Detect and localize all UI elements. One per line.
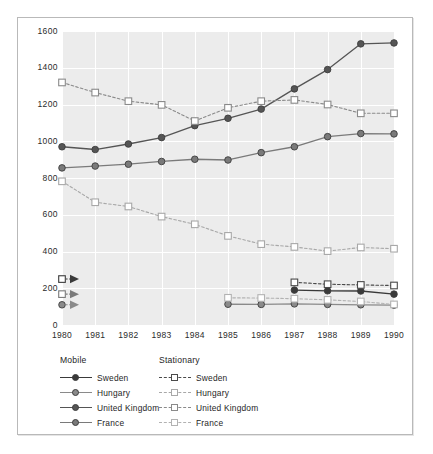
series-marker-circle (225, 301, 232, 308)
series-stationary-hungary (59, 178, 398, 254)
series-marker-square (125, 203, 132, 210)
series-mobile-france (59, 130, 398, 171)
series-marker-square (291, 244, 298, 251)
legend-symbol (159, 402, 191, 414)
legend-item-mobile-sweden[interactable]: Sweden (60, 370, 170, 385)
series-marker-square (225, 295, 232, 302)
series-marker-circle (92, 146, 99, 153)
series-marker-circle (225, 157, 232, 164)
series-marker-circle (125, 161, 132, 168)
legend-marker-circle (72, 419, 79, 426)
series-marker-square (225, 233, 232, 240)
arrow-sweden-stationary (59, 275, 79, 283)
legend-marker-square (171, 374, 178, 381)
series-layer (62, 31, 394, 325)
legend-item-stationary-france[interactable]: France (159, 415, 319, 430)
series-marker-circle (358, 130, 365, 137)
y-axis-tick-label: 400 (22, 246, 58, 256)
series-marker-circle (391, 291, 398, 298)
series-marker-circle (291, 86, 298, 93)
legend-marker-square (171, 389, 178, 396)
series-stationary-sweden (291, 279, 397, 289)
series-marker-square (92, 199, 99, 206)
series-marker-square (258, 295, 265, 302)
series-marker-circle (291, 143, 298, 150)
series-line (62, 181, 394, 251)
annotation-arrow-head (70, 301, 79, 309)
legend-symbol (159, 417, 191, 429)
series-marker-circle (291, 287, 298, 294)
series-marker-circle (59, 143, 66, 150)
legend-label: Sweden (196, 373, 227, 383)
legend-item-mobile-united-kingdom[interactable]: United Kingdom (60, 400, 170, 415)
series-marker-square (324, 297, 331, 304)
legend-item-stationary-sweden[interactable]: Sweden (159, 370, 319, 385)
series-marker-square (391, 301, 398, 308)
series-marker-circle (125, 141, 132, 148)
legend-symbol (159, 387, 191, 399)
series-marker-square (225, 105, 232, 112)
series-marker-square (291, 97, 298, 104)
series-line (62, 43, 394, 150)
arrow-sweden-mobile (59, 290, 79, 298)
series-marker-square (158, 213, 165, 220)
series-marker-square (291, 279, 298, 286)
y-axis-tick-label: 800 (22, 173, 58, 183)
series-mobile-sweden (291, 287, 397, 298)
legend-marker-square (171, 419, 178, 426)
legend-item-mobile-france[interactable]: France (60, 415, 170, 430)
legend-symbol (60, 387, 92, 399)
legend-label: France (97, 418, 124, 428)
legend-symbol (159, 372, 191, 384)
legend-label: Hungary (97, 388, 130, 398)
legend-label: United Kingdom (196, 403, 258, 413)
series-marker-circle (324, 288, 331, 295)
legend-label: Sweden (97, 373, 128, 383)
y-axis-tick-label: 1600 (22, 26, 58, 36)
series-marker-circle (324, 66, 331, 73)
series-marker-square (391, 110, 398, 117)
annotation-marker-square (59, 291, 66, 298)
series-marker-square (59, 79, 66, 86)
legend-marker-square (171, 404, 178, 411)
series-marker-circle (59, 165, 66, 172)
legend-marker-circle (72, 389, 79, 396)
legend-label: United Kingdom (97, 403, 159, 413)
series-marker-circle (258, 149, 265, 156)
y-axis-tick-label: 1400 (22, 62, 58, 72)
legend-item-stationary-united-kingdom[interactable]: United Kingdom (159, 400, 319, 415)
y-axis-tick-label: 200 (22, 283, 58, 293)
series-marker-square (391, 245, 398, 252)
x-axis-tick-label: 1990 (374, 330, 414, 340)
series-marker-square (391, 282, 398, 289)
series-marker-circle (92, 163, 99, 170)
y-axis-tick-label: 600 (22, 209, 58, 219)
series-marker-square (258, 241, 265, 248)
series-marker-square (92, 89, 99, 96)
annotation-marker-square (59, 276, 66, 283)
legend-group-stationary: Stationary SwedenHungaryUnited KingdomFr… (159, 355, 319, 430)
series-marker-circle (258, 301, 265, 308)
series-marker-circle (258, 106, 265, 113)
series-marker-square (291, 295, 298, 302)
series-marker-square (192, 118, 199, 125)
legend-symbol (60, 372, 92, 384)
series-marker-circle (158, 134, 165, 141)
series-stationary-france (225, 295, 398, 308)
gridline-vertical (394, 31, 395, 325)
legend-item-stationary-hungary[interactable]: Hungary (159, 385, 319, 400)
legend-item-mobile-hungary[interactable]: Hungary (60, 385, 170, 400)
chart-figure: NOx (thousand tonnes/year) 0200400600800… (0, 0, 433, 454)
series-marker-square (358, 110, 365, 117)
y-axis-tick-label: 1200 (22, 99, 58, 109)
series-marker-square (125, 98, 132, 105)
legend-symbol (60, 402, 92, 414)
series-line (294, 290, 394, 294)
series-marker-square (324, 281, 331, 288)
series-marker-square (158, 102, 165, 109)
series-marker-square (192, 221, 199, 228)
series-marker-square (59, 178, 66, 185)
series-marker-circle (158, 158, 165, 165)
y-axis-ticks: 02004006008001000120014001600 (20, 0, 58, 454)
legend-label: France (196, 418, 223, 428)
